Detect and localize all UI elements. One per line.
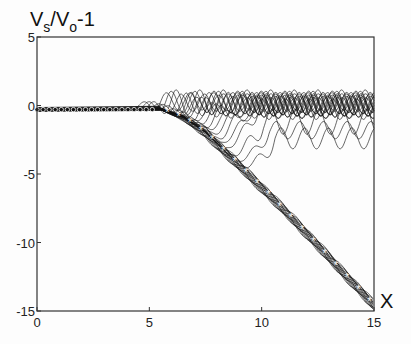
circle-marker [77, 107, 81, 111]
x-tick-label: 15 [367, 315, 381, 330]
circle-marker [41, 107, 45, 111]
circle-marker [114, 107, 118, 111]
circle-marker [150, 107, 154, 111]
y-tick-label: 5 [28, 30, 35, 45]
circle-marker [83, 107, 87, 111]
circle-marker [65, 107, 69, 111]
asterisk-marker: * [165, 106, 170, 118]
circle-marker [47, 107, 51, 111]
circle-marker [53, 107, 57, 111]
x-tick-label: 10 [254, 315, 268, 330]
asterisk-marker: * [334, 259, 339, 271]
circle-marker [71, 107, 75, 111]
asterisk-marker: * [244, 166, 249, 178]
axis-ticks: 05101550-5-10-15 [16, 30, 381, 330]
x-axis-label: X [380, 290, 393, 312]
asterisk-marker: * [289, 211, 294, 223]
asterisk-marker: * [188, 116, 193, 128]
circle-marker [59, 107, 63, 111]
curve [37, 110, 373, 309]
asterisk-marker: * [176, 110, 181, 122]
circle-marker [108, 107, 112, 111]
curve-group: ******************* [35, 90, 374, 309]
circle-marker [120, 107, 124, 111]
asterisk-marker: * [356, 283, 361, 295]
y-tick-label: -15 [16, 304, 35, 319]
circle-marker [132, 107, 136, 111]
plot-frame [37, 37, 374, 311]
asterisk-marker: * [300, 223, 305, 235]
asterisk-marker: * [199, 124, 204, 136]
circle-marker [89, 107, 93, 111]
circle-marker [102, 107, 106, 111]
asterisk-marker: * [210, 133, 215, 145]
asterisk-marker: * [255, 177, 260, 189]
asterisk-marker: * [266, 188, 271, 200]
curve [37, 110, 373, 309]
curve [37, 110, 373, 309]
asterisk-marker: * [345, 271, 350, 283]
asterisk-marker: * [233, 155, 238, 167]
asterisk-marker: * [221, 144, 226, 156]
circle-marker [126, 107, 130, 111]
y-tick-label: -5 [23, 167, 35, 182]
circle-marker [138, 107, 142, 111]
y-axis-label: Vs/Vo-1 [30, 8, 95, 35]
chart: ******************* 05101550-5-10-15 Vs/… [0, 0, 411, 344]
y-tick-label: 0 [28, 99, 35, 114]
asterisk-marker: * [311, 235, 316, 247]
circle-marker [144, 107, 148, 111]
circle-marker [95, 107, 99, 111]
x-tick-label: 5 [146, 315, 153, 330]
asterisk-marker: * [277, 200, 282, 212]
y-tick-label: -10 [16, 236, 35, 251]
asterisk-marker: * [367, 295, 372, 307]
asterisk-marker: * [322, 247, 327, 259]
